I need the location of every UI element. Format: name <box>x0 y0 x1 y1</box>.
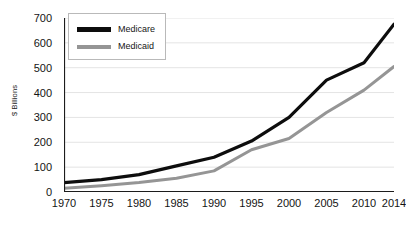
x-tick-label: 2000 <box>277 198 301 209</box>
x-tick-label: 1980 <box>127 198 151 209</box>
x-tick-label: 2010 <box>352 198 376 209</box>
y-axis-tick-labels: 0100200300400500600700 <box>26 0 52 230</box>
legend-swatch-medicaid <box>77 45 111 49</box>
legend-item-medicare: Medicare <box>77 21 159 38</box>
y-tick-label: 700 <box>26 13 52 24</box>
x-tick-label: 1975 <box>89 198 113 209</box>
x-tick-label: 1990 <box>202 198 226 209</box>
x-tick-label: 1985 <box>164 198 188 209</box>
legend-swatch-medicare <box>77 27 111 32</box>
legend-label-medicaid: Medicaid <box>118 42 154 51</box>
x-tick-label: 1970 <box>52 198 76 209</box>
legend-label-medicare: Medicare <box>118 25 155 34</box>
y-tick-label: 200 <box>26 137 52 148</box>
legend-item-medicaid: Medicaid <box>77 38 159 55</box>
x-tick-label: 1995 <box>239 198 263 209</box>
y-tick-label: 0 <box>26 187 52 198</box>
x-axis-tick-labels: 1970197519801985199019952000200520102014 <box>0 198 404 220</box>
y-tick-label: 100 <box>26 162 52 173</box>
y-tick-label: 500 <box>26 62 52 73</box>
y-tick-label: 400 <box>26 87 52 98</box>
chart-legend: Medicare Medicaid <box>68 13 166 60</box>
x-tick-label: 2005 <box>314 198 338 209</box>
y-axis-title: $ Billions <box>10 71 19 131</box>
y-tick-label: 600 <box>26 37 52 48</box>
x-tick-label: 2014 <box>382 198 406 209</box>
y-tick-label: 300 <box>26 112 52 123</box>
